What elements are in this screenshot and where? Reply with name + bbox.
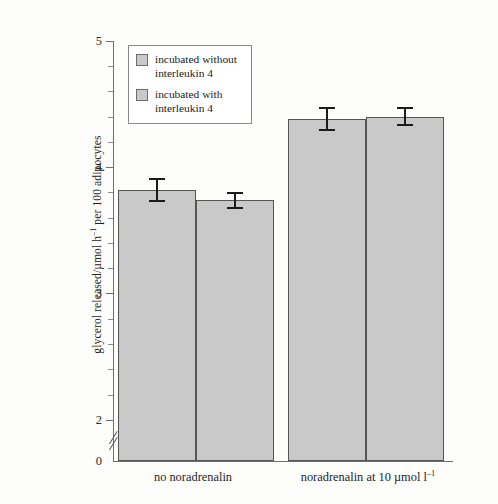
- legend-label-1-line1: incubated with: [155, 88, 222, 100]
- bar-group0-series0: [118, 190, 196, 461]
- y-tick-minor: [108, 142, 113, 143]
- y-tick-minor: [108, 192, 113, 193]
- y-axis-title-main: glycerol released/µmol h: [91, 236, 104, 354]
- y-axis-title-tail: per 100 adipocytes: [91, 135, 104, 227]
- y-axis-title: glycerol released/µmol h–1 per 100 adipo…: [91, 120, 104, 370]
- y-tick-5: [106, 41, 114, 42]
- y-axis-line: [113, 42, 114, 462]
- legend-item-0: incubated without interleukin 4: [136, 53, 243, 81]
- y-tick-2: [106, 420, 114, 421]
- x-category-label-1-sup: –1: [427, 468, 435, 478]
- y-tick-3: [106, 293, 114, 294]
- bar-group0-series1: [196, 200, 274, 461]
- y-tick-minor: [108, 344, 113, 345]
- y-tick-minor: [108, 117, 113, 118]
- y-tick-minor: [108, 243, 113, 244]
- y-tick-minor: [108, 395, 113, 396]
- legend-label-1: incubated with interleukin 4: [155, 88, 222, 116]
- legend-swatch-icon-0: [136, 54, 148, 66]
- legend-swatch-icon-1: [136, 89, 148, 101]
- y-tick-minor: [108, 218, 113, 219]
- x-category-label-1-main: noradrenalin at 10 µmol l: [301, 470, 427, 484]
- error-bar-group0-series1: [227, 192, 243, 209]
- legend: incubated without interleukin 4 incubate…: [128, 45, 252, 124]
- chart-figure: 5 4 3 2 0 glycerol released/µmol h–1 per…: [0, 0, 498, 504]
- y-tick-minor: [108, 319, 113, 320]
- y-tick-minor: [108, 268, 113, 269]
- x-axis-line: [113, 461, 453, 462]
- y-tick-label-5: 5: [76, 35, 102, 48]
- legend-label-0-line1: incubated without: [155, 53, 237, 65]
- error-bar-group0-series0: [149, 178, 165, 202]
- x-category-label-0-main: no noradrenalin: [154, 470, 232, 484]
- x-category-label-0: no noradrenalin: [113, 470, 273, 485]
- y-tick-minor: [108, 91, 113, 92]
- x-category-label-1: noradrenalin at 10 µmol l–1: [283, 470, 453, 485]
- y-tick-4: [106, 167, 114, 168]
- legend-label-1-line2: interleukin 4: [155, 102, 213, 114]
- plot-area: 5 4 3 2 0 glycerol released/µmol h–1 per…: [0, 0, 498, 504]
- y-axis-title-sup: –1: [89, 228, 98, 236]
- y-tick-minor: [108, 369, 113, 370]
- y-tick-minor: [108, 66, 113, 67]
- legend-label-0-line2: interleukin 4: [155, 67, 213, 79]
- error-bar-group1-series1: [397, 107, 413, 126]
- legend-label-0: incubated without interleukin 4: [155, 53, 237, 81]
- error-bar-group1-series0: [319, 107, 335, 131]
- bar-group1-series1: [366, 117, 444, 461]
- legend-item-1: incubated with interleukin 4: [136, 88, 243, 116]
- y-tick-label-2: 2: [76, 414, 102, 427]
- y-tick-label-0: 0: [76, 455, 102, 468]
- bar-group1-series0: [288, 119, 366, 461]
